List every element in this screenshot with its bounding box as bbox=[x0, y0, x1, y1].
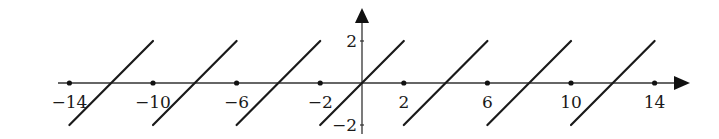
x-tick-label: −10 bbox=[135, 92, 171, 112]
x-tick-label: −2 bbox=[308, 92, 333, 112]
x-tick-dot bbox=[150, 80, 155, 85]
x-tick-dot bbox=[234, 80, 239, 85]
x-tick-dot bbox=[318, 80, 323, 85]
x-tick-label: 14 bbox=[644, 92, 666, 112]
x-axis-arrow-icon bbox=[674, 76, 690, 90]
x-tick-label: 10 bbox=[560, 92, 582, 112]
x-tick-dot bbox=[652, 80, 657, 85]
y-axis-arrow-icon bbox=[355, 8, 369, 23]
sawtooth-chart: −14−10−6−2261014 2−2 bbox=[0, 0, 719, 139]
x-tick-dot bbox=[401, 80, 406, 85]
x-tick-dot bbox=[568, 80, 573, 85]
x-tick-dot bbox=[67, 80, 72, 85]
x-tick-label: 6 bbox=[482, 92, 493, 112]
y-tick-label: 2 bbox=[346, 31, 357, 51]
x-tick-label: −14 bbox=[51, 92, 87, 112]
y-tick-label: −2 bbox=[332, 115, 357, 135]
x-tick-label: −6 bbox=[224, 92, 249, 112]
x-tick-label: 2 bbox=[398, 92, 409, 112]
x-tick-dot bbox=[485, 80, 490, 85]
